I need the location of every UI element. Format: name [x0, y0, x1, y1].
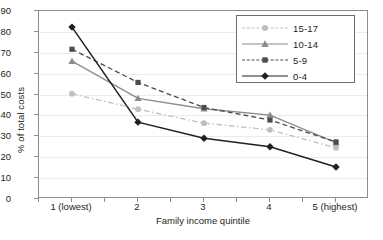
x-axis-boundary-tick [170, 198, 171, 202]
y-axis-tick-label: 80 [0, 25, 11, 36]
data-point [69, 47, 74, 52]
legend-item-0-4[interactable]: 0-4 [237, 68, 354, 84]
y-axis-title: % of total costs [15, 55, 26, 185]
legend-label: 15-17 [293, 23, 318, 34]
legend-swatch [242, 54, 288, 66]
y-axis-tick-label: 40 [0, 109, 11, 120]
x-axis-tick-mark [335, 198, 336, 202]
x-axis-boundary-tick [236, 198, 237, 202]
data-point [201, 105, 206, 110]
data-point [200, 135, 207, 142]
legend-marker [258, 53, 272, 67]
y-axis-tick-label: 0 [0, 193, 11, 204]
legend-item-5-9[interactable]: 5-9 [237, 52, 354, 68]
data-point [332, 163, 339, 170]
y-axis-tick-label: 10 [0, 172, 11, 183]
y-axis-tick-label: 60 [0, 67, 11, 78]
legend-marker [258, 37, 272, 51]
x-axis-boundary-tick [302, 198, 303, 202]
line-chart: % of total costs 0102030405060708090 1 (… [0, 0, 383, 240]
x-axis-tick-label: 2 [134, 201, 139, 212]
x-axis-boundary-tick [38, 198, 39, 202]
legend-marker [258, 69, 272, 83]
legend-item-10-14[interactable]: 10-14 [237, 36, 354, 52]
legend-swatch [242, 70, 288, 82]
y-axis-tick-label: 70 [0, 46, 11, 57]
x-axis-boundary-tick [104, 198, 105, 202]
data-point [333, 145, 339, 151]
legend-label: 0-4 [293, 71, 307, 82]
data-point [134, 95, 141, 101]
data-point [267, 117, 272, 122]
x-axis-tick-mark [137, 198, 138, 202]
y-axis-tick-label: 90 [0, 5, 11, 16]
x-axis-title: Family income quintile [38, 215, 368, 226]
y-axis-tick-label: 20 [0, 151, 11, 162]
x-axis-tick-mark [269, 198, 270, 202]
legend: 15-1710-145-90-4 [236, 15, 355, 83]
data-point [135, 80, 140, 85]
x-axis-tick-mark [203, 198, 204, 202]
data-point [201, 120, 207, 126]
legend-swatch [242, 38, 288, 50]
x-axis-tick-label: 1 (lowest) [50, 201, 91, 212]
legend-marker [258, 21, 272, 35]
x-axis-tick-label: 3 [200, 201, 205, 212]
data-point [68, 58, 75, 64]
data-point [267, 127, 273, 133]
x-axis-tick-label: 5 (highest) [313, 201, 358, 212]
data-point [266, 143, 273, 150]
legend-label: 5-9 [293, 55, 307, 66]
y-axis-tick-label: 30 [0, 130, 11, 141]
legend-swatch [242, 22, 288, 34]
legend-item-15-17[interactable]: 15-17 [237, 20, 354, 36]
legend-label: 10-14 [293, 39, 318, 50]
data-point [333, 139, 338, 144]
x-axis-tick-label: 4 [266, 201, 271, 212]
y-axis-tick-label: 50 [0, 88, 11, 99]
data-point [135, 106, 141, 112]
data-point [69, 91, 75, 97]
x-axis-tick-mark [71, 198, 72, 202]
